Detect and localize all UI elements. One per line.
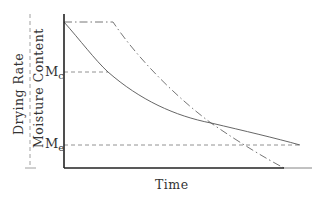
me-label-sub: e: [58, 142, 64, 153]
drying-curve-diagram: [0, 0, 323, 200]
mc-label-main: M: [45, 64, 58, 79]
x-label-time: Time: [155, 177, 189, 192]
me-label: Me: [45, 136, 64, 153]
drying-rate-curve: [64, 22, 284, 168]
mc-label-sub: c: [58, 70, 64, 81]
y-label-moisture-content: Moisture Content: [31, 28, 46, 148]
mc-label: Mc: [45, 64, 64, 81]
me-label-main: M: [45, 136, 58, 151]
moisture-content-curve: [64, 22, 300, 145]
y-label-drying-rate: Drying Rate: [11, 53, 26, 135]
